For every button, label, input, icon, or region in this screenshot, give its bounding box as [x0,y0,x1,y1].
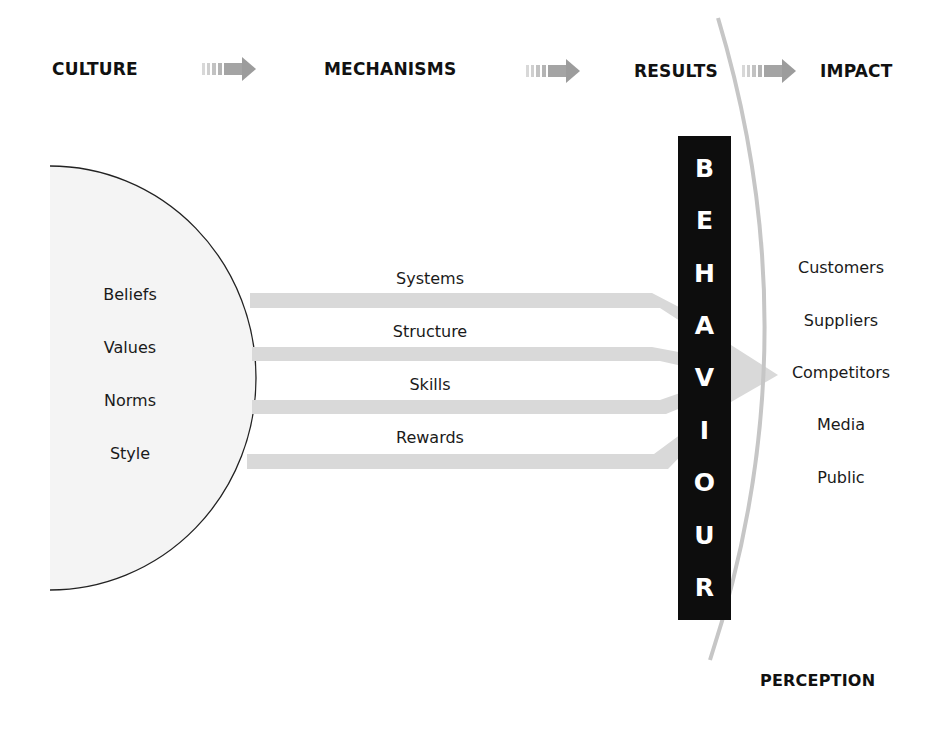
culture-item: Values [90,338,170,357]
culture-item: Beliefs [90,285,170,304]
flow-arrow-icon [740,57,796,85]
impact-item: Competitors [776,363,906,382]
mechanism-item: Skills [370,375,490,394]
behaviour-bar: B E H A V I O U R [678,136,731,620]
header-impact: IMPACT [820,61,893,81]
behaviour-letter: U [694,523,714,548]
behaviour-letter: A [695,313,714,338]
header-results: RESULTS [634,61,718,81]
flow-arrow-icon [200,55,256,83]
impact-item: Customers [776,258,906,277]
behaviour-letter: V [695,365,714,390]
impact-item: Media [776,415,906,434]
label-perception: PERCEPTION [760,671,875,690]
behaviour-letter: E [696,208,713,233]
flow-arrow-icon [524,57,580,85]
impact-item: Suppliers [776,311,906,330]
header-mechanisms: MECHANISMS [324,59,456,79]
culture-item: Style [90,444,170,463]
header-culture: CULTURE [52,59,138,79]
behaviour-letter: H [694,261,715,286]
impact-item: Public [776,468,906,487]
behaviour-letter: R [695,575,714,600]
mechanism-item: Systems [370,269,490,288]
behaviour-letter: O [694,470,715,495]
behaviour-letter: I [700,418,709,443]
behaviour-letter: B [695,156,714,181]
mechanism-item: Rewards [370,428,490,447]
culture-item: Norms [90,391,170,410]
mechanism-item: Structure [370,322,490,341]
